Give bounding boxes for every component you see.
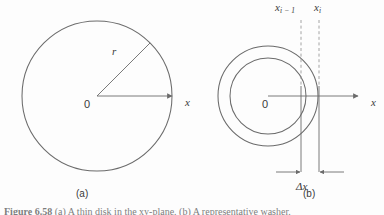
figure-caption: Figure 6.58 (a) A thin disk in the xy-pl…	[4, 206, 380, 215]
panel-b-x-axis-label: x	[371, 97, 376, 108]
radius-line	[97, 43, 150, 96]
panel-a-tag: (a)	[76, 189, 88, 199]
figure-graphics	[0, 0, 384, 215]
xi-label-subscript: i	[319, 6, 321, 15]
radius-label: r	[112, 46, 116, 57]
panel-a-x-axis-label: x	[185, 97, 190, 108]
xi-minus-1-label-subscript: i − 1	[280, 6, 295, 15]
panel-b-graphics	[218, 20, 358, 172]
xi-label: xi	[314, 2, 321, 13]
figure-container: r 0 x (a) 0 x xi − 1 xi Δx (b) Figure 6.…	[0, 0, 384, 215]
panel-a-graphics	[22, 21, 172, 171]
panel-a-origin-label: 0	[84, 99, 90, 110]
xi-minus-1-label: xi − 1	[275, 2, 295, 13]
panel-b-origin-label: 0	[262, 99, 268, 110]
figure-caption-number: Figure 6.58	[4, 206, 52, 215]
figure-caption-text: (a) A thin disk in the xy-plane. (b) A r…	[55, 206, 291, 215]
panel-b-tag: (b)	[303, 189, 315, 199]
